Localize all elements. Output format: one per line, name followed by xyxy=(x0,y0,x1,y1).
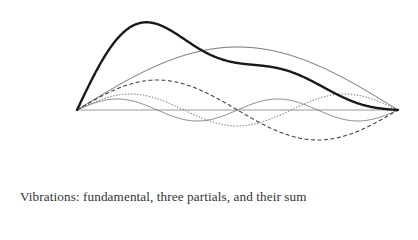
figure-caption: Vibrations: fundamental, three partials,… xyxy=(20,189,307,205)
sum-wave xyxy=(77,22,398,110)
